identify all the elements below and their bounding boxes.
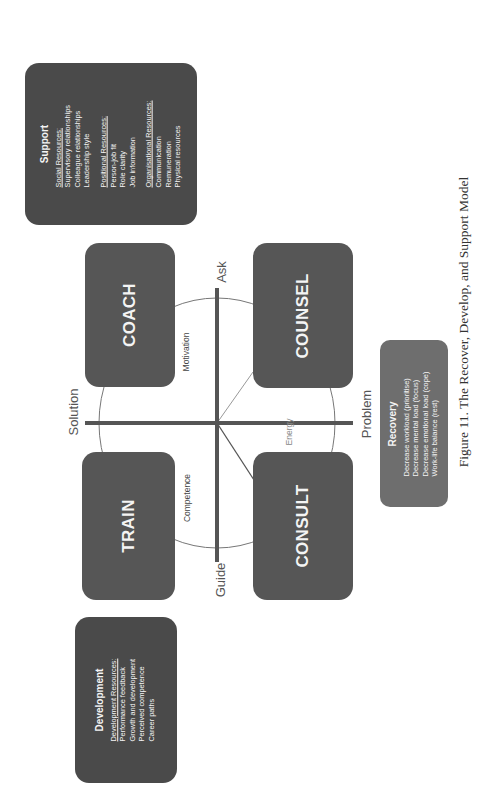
support-section-heading: Social Resources: — [53, 100, 63, 187]
axis-label-solution: Solution — [66, 389, 81, 436]
recovery-title: Recovery — [388, 371, 398, 476]
development-item: Career paths — [147, 659, 157, 742]
support-item: Person-job fit — [108, 100, 118, 187]
support-section-heading: Organisational Resources: — [144, 100, 154, 187]
support-title: Support — [40, 100, 50, 187]
support-item: Leadership style — [82, 100, 92, 187]
recovery-item: Decrease workload (prioritise) — [402, 371, 412, 476]
support-content: Support Social Resources: Supervisory re… — [40, 100, 183, 187]
support-item: Job information — [127, 100, 137, 187]
coach-label: COACH — [120, 283, 140, 347]
development-panel: Development Development Resources: Perfo… — [75, 617, 177, 783]
recovery-item: Work-life balance (rest) — [430, 371, 440, 476]
support-item: Physical resources — [173, 100, 183, 187]
axis-label-ask: Ask — [214, 261, 229, 283]
support-item: Supervisory relationships — [63, 100, 73, 187]
development-title: Development — [95, 659, 105, 742]
consult-label: CONSULT — [293, 485, 313, 568]
support-item: Communication — [154, 100, 164, 187]
development-content: Development Development Resources: Perfo… — [95, 659, 157, 742]
support-panel: Support Social Resources: Supervisory re… — [25, 63, 197, 225]
recovery-content: Recovery Decrease workload (prioritise) … — [388, 371, 440, 476]
figure-caption: Figure 11. The Recover, Develop, and Sup… — [456, 177, 472, 467]
axis-label-problem: Problem — [359, 390, 374, 438]
quadrant-coach: COACH — [85, 243, 175, 387]
recovery-item: Decrease mental load (focus) — [411, 371, 421, 476]
diagonal-energy-upper — [217, 372, 253, 423]
support-section-heading: Positional Resources: — [99, 100, 109, 187]
development-item: Performance feedback — [118, 659, 128, 742]
label-competence: Competence — [182, 474, 192, 522]
label-motivation: Motivation — [181, 333, 191, 372]
diagonal-energy-lower — [217, 423, 254, 480]
development-item: Perceived competence — [138, 659, 148, 742]
counsel-label: COUNSEL — [293, 273, 313, 358]
axis-label-guide: Guide — [213, 563, 228, 598]
quadrant-counsel: COUNSEL — [253, 243, 353, 388]
train-label: TRAIN — [119, 499, 139, 552]
quadrant-consult: CONSULT — [253, 452, 353, 600]
development-item: Growth and development — [128, 659, 138, 742]
support-item: Role clarity — [118, 100, 128, 187]
support-item: Colleague relationships — [72, 100, 82, 187]
recovery-panel: Recovery Decrease workload (prioritise) … — [380, 340, 448, 507]
development-section-heading: Development Resources: — [109, 659, 119, 742]
recovery-item: Decrease emotional load (cope) — [421, 371, 431, 476]
quadrant-train: TRAIN — [82, 452, 175, 600]
label-energy: Energy — [284, 419, 294, 446]
support-item: Remuneration — [163, 100, 173, 187]
